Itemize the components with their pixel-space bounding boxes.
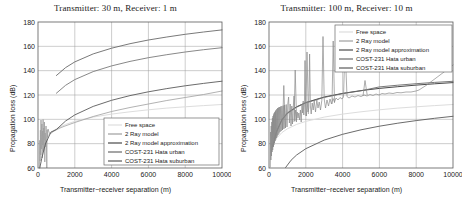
svg-text:8000: 8000 xyxy=(408,171,424,178)
svg-text:140: 140 xyxy=(254,67,266,74)
legend-right[interactable]: Free space 2 Ray model 2 Ray model appro… xyxy=(335,25,452,72)
legend-label-3: COST-231 Hata urban xyxy=(356,56,416,62)
svg-text:100: 100 xyxy=(23,116,35,123)
svg-text:80: 80 xyxy=(27,140,35,147)
legend-label-0: Free space xyxy=(356,29,387,35)
legend-label-4: COST-231 Hata suburban xyxy=(125,158,194,164)
plot-area-left: 180 160 140 120 100 80 60 0 2000 4000 60… xyxy=(0,0,231,201)
svg-text:4000: 4000 xyxy=(104,171,120,178)
legend-label-2: 2 Ray model approximation xyxy=(125,140,198,146)
legend-label-3: COST-231 Hata urban xyxy=(125,149,185,155)
y-tick-labels-left: 180 160 140 120 100 80 60 xyxy=(23,19,35,172)
svg-text:4000: 4000 xyxy=(335,171,351,178)
svg-text:8000: 8000 xyxy=(177,171,193,178)
svg-text:100: 100 xyxy=(254,116,266,123)
svg-text:6000: 6000 xyxy=(141,171,157,178)
y-tick-labels-right: 180 160 140 120 100 80 60 xyxy=(254,19,266,172)
plot-area-right: 180 160 140 120 100 80 60 0 2000 4000 60… xyxy=(231,0,462,201)
svg-text:10000: 10000 xyxy=(443,171,462,178)
svg-text:2000: 2000 xyxy=(67,171,83,178)
legend-label-2: 2 Ray model approximation xyxy=(356,47,429,53)
x-tick-labels-left: 0 2000 4000 6000 8000 10000 xyxy=(36,171,231,178)
svg-text:2000: 2000 xyxy=(298,171,314,178)
legend-label-4: COST-231 Hata suburban xyxy=(356,65,425,71)
svg-text:180: 180 xyxy=(254,19,266,26)
svg-text:60: 60 xyxy=(258,165,266,172)
svg-text:120: 120 xyxy=(23,92,35,99)
legend-label-0: Free space xyxy=(125,122,156,128)
svg-text:10000: 10000 xyxy=(212,171,231,178)
x-tick-labels-right: 0 2000 4000 6000 8000 10000 xyxy=(267,171,462,178)
svg-text:120: 120 xyxy=(254,92,266,99)
svg-text:160: 160 xyxy=(254,43,266,50)
chart-panel-left: Transmitter: 30 m, Receiver: 1 m Propaga… xyxy=(0,0,231,201)
svg-text:0: 0 xyxy=(36,171,40,178)
svg-text:6000: 6000 xyxy=(372,171,388,178)
svg-text:140: 140 xyxy=(23,67,35,74)
svg-text:0: 0 xyxy=(267,171,271,178)
legend-left[interactable]: Free space 2 Ray model 2 Ray model appro… xyxy=(104,118,219,165)
legend-label-1: 2 Ray model xyxy=(356,38,390,44)
svg-text:160: 160 xyxy=(23,43,35,50)
svg-text:180: 180 xyxy=(23,19,35,26)
figure-container: Transmitter: 30 m, Receiver: 1 m Propaga… xyxy=(0,0,462,201)
svg-text:60: 60 xyxy=(27,165,35,172)
chart-panel-right: Transmitter: 100 m, Receiver: 10 m Propa… xyxy=(231,0,462,201)
legend-label-1: 2 Ray model xyxy=(125,131,159,137)
svg-text:80: 80 xyxy=(258,140,266,147)
